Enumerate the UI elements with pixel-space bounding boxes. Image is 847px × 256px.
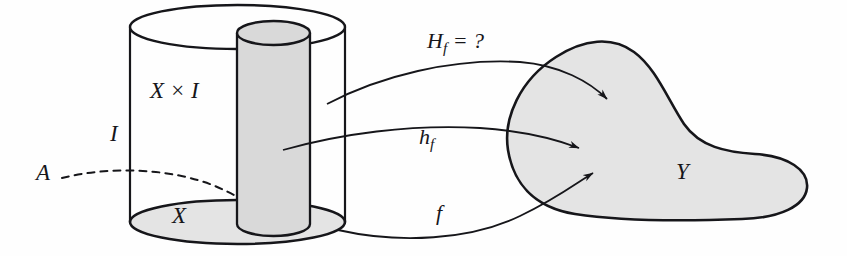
label-extension-map-Hf: Hf = ? [427, 28, 484, 57]
label-extension-map-question: = ? [447, 28, 484, 53]
label-homotopy-map-subscript: f [430, 135, 434, 152]
inner-cylinder-top-ellipse [237, 21, 310, 45]
label-subspace-A: A [36, 160, 50, 186]
label-interval-I: I [110, 121, 118, 147]
label-base-space-X: X [172, 203, 186, 229]
label-map-f: f [436, 200, 442, 226]
label-homotopy-map-base: h [419, 124, 430, 149]
inner-cylinder-body [237, 33, 310, 236]
label-target-space-Y: Y [676, 159, 689, 185]
label-cylinder-body: X × I [150, 78, 199, 104]
label-extension-map-base: H [427, 28, 443, 53]
homotopy-extension-figure: X × I I X A Hf = ? hf f Y [0, 0, 847, 256]
label-homotopy-map-hf: hf [419, 124, 434, 153]
